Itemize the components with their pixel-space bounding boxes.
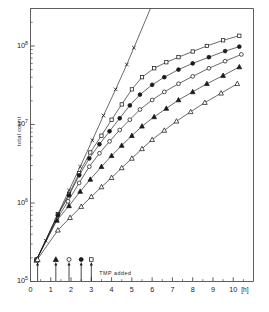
- series-line: [37, 54, 242, 259]
- x-axis-ticks: [31, 277, 244, 281]
- y-axis-ticks: [31, 9, 35, 282]
- x-tick-label: 8: [186, 285, 200, 294]
- x-tick-label: 9: [206, 285, 220, 294]
- series-line: [37, 67, 240, 260]
- y-tick-label: 106: [4, 198, 28, 207]
- tmp-added-annotation: TMP added: [99, 270, 131, 276]
- data-series: [34, 81, 239, 262]
- x-tick-label: 10: [226, 285, 240, 294]
- x-tick-label: 0: [24, 285, 38, 294]
- plot-frame: [31, 9, 254, 282]
- x-tick-label: 2: [64, 285, 78, 294]
- x-axis-unit: [h]: [241, 286, 248, 293]
- data-series: [35, 45, 241, 262]
- y-axis-label: total count: [16, 116, 22, 146]
- x-tick-label: 7: [165, 285, 179, 294]
- series-line: [37, 84, 238, 261]
- x-tick-label: 5: [125, 285, 139, 294]
- data-series: [35, 53, 244, 262]
- series-line: [37, 47, 240, 260]
- tmp-arrow-group: [35, 257, 93, 281]
- x-tick-label: 4: [105, 285, 119, 294]
- y-tick-label: 105: [4, 276, 28, 285]
- data-series-group: [34, 9, 243, 263]
- x-tick-label: 3: [84, 285, 98, 294]
- growth-curve-chart: 105106107108012345678910[h]total countTM…: [0, 0, 269, 312]
- x-tick-label: 1: [44, 285, 58, 294]
- x-tick-label: 6: [145, 285, 159, 294]
- y-tick-label: 108: [4, 41, 28, 50]
- chart-canvas: [0, 0, 269, 312]
